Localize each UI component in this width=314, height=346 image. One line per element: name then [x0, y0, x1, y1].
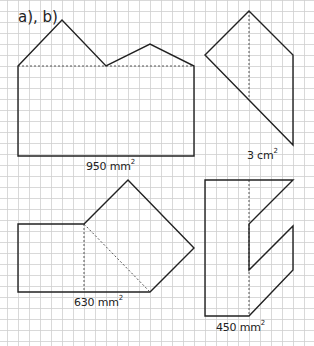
area-value: 450 mm	[216, 321, 261, 334]
exercise-title: a), b)	[18, 8, 58, 26]
grid-lines	[0, 0, 314, 346]
grid-diagram	[0, 0, 314, 346]
dashed-helper-line	[84, 224, 150, 292]
area-value: 3 cm	[247, 149, 273, 162]
figure-1	[18, 20, 194, 156]
area-label-figure-3: 630 mm2	[74, 296, 123, 309]
area-label-figure-1: 950 mm2	[86, 160, 135, 173]
figure-outline	[18, 20, 194, 156]
area-value: 950 mm	[86, 160, 131, 173]
figure-4	[205, 180, 293, 316]
area-label-figure-2: 3 cm2	[247, 149, 278, 162]
area-exponent: 2	[273, 147, 277, 155]
area-exponent: 2	[261, 319, 265, 327]
area-value: 630 mm	[74, 296, 119, 309]
area-exponent: 2	[119, 294, 123, 302]
area-exponent: 2	[131, 158, 135, 166]
area-label-figure-4: 450 mm2	[216, 321, 265, 334]
figure-2	[205, 11, 293, 145]
shapes	[18, 11, 293, 316]
